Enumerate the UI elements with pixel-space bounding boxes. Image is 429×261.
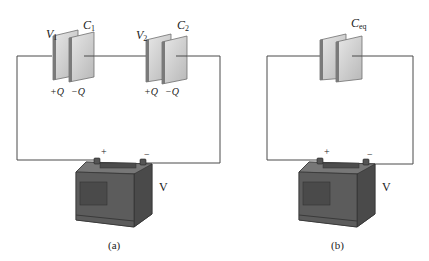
label-v1: V1 xyxy=(46,28,57,42)
panel-a xyxy=(17,30,220,227)
panel-b xyxy=(267,34,413,227)
label-c1-minus-q: −Q xyxy=(71,87,85,97)
label-battery-b-plus: + xyxy=(324,147,330,157)
wire-loop-a xyxy=(17,56,220,163)
label-battery-b-minus: − xyxy=(367,150,373,160)
label-battery-a-plus: + xyxy=(101,147,107,157)
capacitor-c2 xyxy=(146,34,187,84)
label-battery-b-voltage: V xyxy=(382,181,391,193)
capacitor-ceq xyxy=(320,34,362,82)
label-c2-plus-q: +Q xyxy=(144,87,158,97)
caption-b: (b) xyxy=(331,240,344,251)
label-battery-a-voltage: V xyxy=(159,181,168,193)
ceq-plate-negative xyxy=(336,36,362,82)
circuit-diagram xyxy=(0,0,429,261)
label-battery-a-minus: − xyxy=(144,150,150,160)
caption-a: (a) xyxy=(108,240,120,251)
battery-a xyxy=(76,158,152,227)
label-v2: V2 xyxy=(136,29,147,43)
label-c2-minus-q: −Q xyxy=(165,87,179,97)
label-c2: C2 xyxy=(177,19,189,33)
label-c1: C1 xyxy=(83,19,95,33)
label-c1-plus-q: +Q xyxy=(50,87,64,97)
capacitor-c1 xyxy=(53,30,94,82)
c2-plate-negative xyxy=(162,36,187,84)
battery-b xyxy=(299,158,375,227)
label-ceq: Ceq xyxy=(351,17,367,31)
c1-plate-negative xyxy=(69,32,94,82)
